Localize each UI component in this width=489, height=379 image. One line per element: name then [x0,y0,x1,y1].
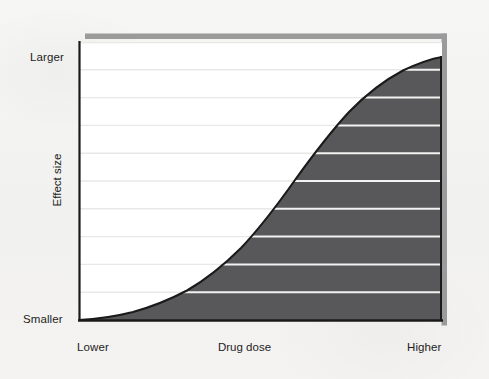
x-axis-title: Drug dose [0,341,489,353]
y-axis-title: Effect size [0,120,117,240]
y-axis-min-label: Smaller [23,313,63,325]
dose-response-figure: Larger Smaller Lower Higher Drug dose Ef… [0,0,489,379]
y-axis-max-label: Larger [30,51,64,63]
